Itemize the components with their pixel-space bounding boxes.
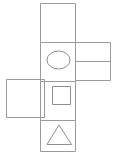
triangle-symbol-icon <box>47 125 72 145</box>
cube-net-svg <box>0 0 118 159</box>
cube-net-figure <box>0 0 118 159</box>
net-face-triangle <box>41 121 76 152</box>
ellipse-symbol-icon <box>47 51 70 69</box>
net-flap-left <box>7 80 45 118</box>
square-symbol-icon <box>53 87 71 105</box>
net-face-top-blank <box>41 4 76 43</box>
